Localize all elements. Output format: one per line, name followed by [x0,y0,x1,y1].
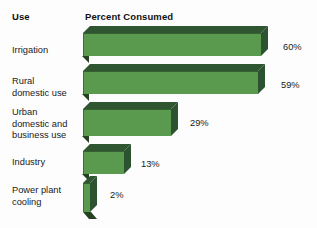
bar-front-face [83,33,261,56]
column-header-use: Use [12,11,30,22]
bar-left-wedge [82,94,89,101]
bar-left-wedge [82,56,89,63]
bar-irrigation [83,33,275,63]
category-label-rural-domestic-use: Rural domestic use [12,76,82,99]
category-label-irrigation: Irrigation [12,45,82,57]
bar-power-plant-cooling [83,183,103,219]
bar-front-face [83,151,124,174]
column-header-percent-consumed: Percent Consumed [85,11,173,22]
category-label-urban-domestic-and-business-use: Urban domestic and business use [12,107,82,142]
bar-rural-domestic-use [83,71,273,101]
bar-top-face [83,64,265,71]
value-label-irrigation: 60% [283,42,302,52]
bar-chart: Use Percent Consumed Irrigation Rural do… [0,0,317,228]
bar-top-face [83,144,131,151]
bar-left-wedge [82,136,89,143]
bar-top-face [83,26,268,33]
category-label-industry: Industry [12,157,82,169]
bar-top-face [83,102,178,109]
value-label-power-plant-cooling: 2% [110,190,123,200]
value-label-industry: 13% [141,159,160,169]
bar-urban-domestic-and-business-use [83,109,183,143]
bar-front-face [83,71,258,94]
bar-front-face [83,183,90,212]
bar-bottom-face [82,212,97,219]
value-label-urban-domestic-and-business-use: 29% [190,118,209,128]
value-label-rural-domestic-use: 59% [281,80,300,90]
bar-front-face [83,109,171,136]
category-label-power-plant-cooling: Power plant cooling [12,185,82,208]
